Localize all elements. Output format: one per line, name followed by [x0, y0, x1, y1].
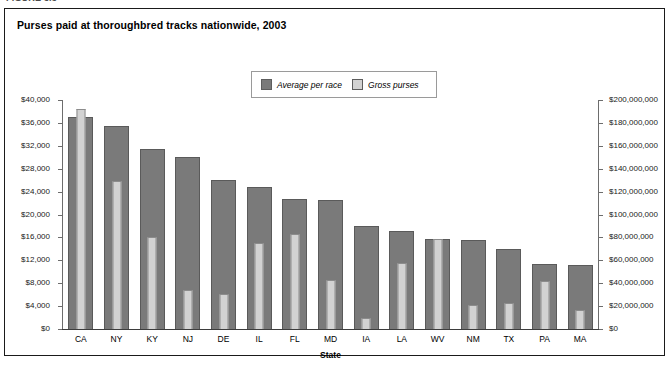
right-axis-tick-label: $100,000,000	[609, 211, 658, 219]
right-tick	[599, 237, 603, 238]
bar-gross-purses[interactable]	[255, 243, 264, 329]
left-tick	[58, 192, 62, 193]
left-tick	[58, 260, 62, 261]
bar-group[interactable]: NY	[104, 100, 129, 329]
chart-title: Purses paid at thoroughbred tracks natio…	[17, 19, 286, 31]
bar-group[interactable]: FL	[282, 100, 307, 329]
bar-gross-purses[interactable]	[362, 318, 371, 329]
bar-gross-purses[interactable]	[469, 305, 478, 329]
legend-item-gross-purses: Gross purses	[352, 79, 419, 90]
bar-gross-purses[interactable]	[112, 181, 121, 329]
x-axis-category-label: PA	[539, 334, 550, 344]
bar-gross-purses[interactable]	[326, 280, 335, 329]
right-tick	[599, 123, 603, 124]
right-axis-tick-label: $20,000,000	[609, 302, 654, 310]
bar-group[interactable]: LA	[389, 100, 414, 329]
right-tick	[599, 169, 603, 170]
left-tick	[58, 283, 62, 284]
bar-gross-purses[interactable]	[540, 281, 549, 329]
left-axis-line	[62, 100, 63, 329]
x-axis-category-label: NJ	[183, 334, 193, 344]
right-axis-tick-label: $180,000,000	[609, 119, 658, 127]
bar-gross-purses[interactable]	[576, 310, 585, 329]
left-tick	[58, 306, 62, 307]
bar-group[interactable]: KY	[140, 100, 165, 329]
left-axis-tick-label: $36,000	[21, 119, 50, 127]
bar-gross-purses[interactable]	[504, 303, 513, 329]
x-axis-category-label: DE	[218, 334, 230, 344]
legend-item-average-per-race: Average per race	[261, 79, 342, 90]
x-axis-category-label: KY	[146, 334, 157, 344]
x-axis-category-label: NM	[467, 334, 480, 344]
bar-group[interactable]: NJ	[175, 100, 200, 329]
right-tick	[599, 215, 603, 216]
x-axis-line	[62, 329, 599, 330]
bar-gross-purses[interactable]	[290, 234, 299, 329]
right-axis-tick-label: $140,000,000	[609, 165, 658, 173]
x-axis-category-label: WV	[431, 334, 445, 344]
left-tick	[58, 215, 62, 216]
bar-gross-purses[interactable]	[433, 239, 442, 329]
bar-group[interactable]: IL	[247, 100, 272, 329]
chart-legend: Average per race Gross purses	[251, 71, 437, 98]
x-axis-title: State	[63, 350, 598, 360]
bar-gross-purses[interactable]	[148, 237, 157, 329]
bar-group[interactable]: WV	[425, 100, 450, 329]
left-tick	[58, 237, 62, 238]
bar-group[interactable]: PA	[532, 100, 557, 329]
right-tick	[599, 306, 603, 307]
legend-label-average-per-race: Average per race	[277, 80, 342, 90]
right-tick	[599, 146, 603, 147]
bar-group[interactable]: DE	[211, 100, 236, 329]
left-tick	[58, 123, 62, 124]
left-tick	[58, 100, 62, 101]
bar-group[interactable]: CA	[68, 100, 93, 329]
x-axis-category-label: CA	[75, 334, 87, 344]
figure-caption-cutoff: FIGURE 3.5	[6, 0, 57, 1]
bar-group[interactable]: TX	[496, 100, 521, 329]
x-axis-category-label: LA	[397, 334, 407, 344]
bar-gross-purses[interactable]	[76, 109, 85, 329]
figure-frame: Purses paid at thoroughbred tracks natio…	[4, 8, 665, 356]
left-axis-tick-label: $8,000	[26, 279, 50, 287]
right-tick	[599, 329, 603, 330]
bar-group[interactable]: MA	[568, 100, 593, 329]
right-axis-tick-label: $40,000,000	[609, 279, 654, 287]
bar-average-per-race[interactable]	[354, 226, 379, 329]
x-axis-category-label: TX	[503, 334, 514, 344]
left-axis-tick-label: $16,000	[21, 233, 50, 241]
legend-swatch-gross-purses	[352, 79, 363, 90]
right-tick	[599, 283, 603, 284]
bar-gross-purses[interactable]	[219, 294, 228, 329]
left-tick	[58, 146, 62, 147]
left-tick	[58, 329, 62, 330]
right-axis-tick-label: $0	[609, 325, 618, 333]
bar-group[interactable]: IA	[354, 100, 379, 329]
right-axis-tick-label: $80,000,000	[609, 233, 654, 241]
x-axis-category-label: IL	[256, 334, 263, 344]
x-axis-category-label: IA	[362, 334, 370, 344]
left-axis-tick-label: $0	[41, 325, 50, 333]
left-axis-tick-label: $12,000	[21, 256, 50, 264]
right-axis-tick-label: $160,000,000	[609, 142, 658, 150]
left-axis-tick-label: $24,000	[21, 188, 50, 196]
right-tick	[599, 192, 603, 193]
x-axis-category-label: FL	[290, 334, 300, 344]
left-axis-tick-label: $32,000	[21, 142, 50, 150]
legend-label-gross-purses: Gross purses	[368, 80, 419, 90]
right-axis-tick-label: $120,000,000	[609, 188, 658, 196]
left-axis-tick-label: $28,000	[21, 165, 50, 173]
bar-gross-purses[interactable]	[397, 263, 406, 329]
left-axis-tick-label: $40,000	[21, 96, 50, 104]
plot-area: $0$4,000$8,000$12,000$16,000$20,000$24,0…	[63, 100, 598, 329]
right-tick	[599, 100, 603, 101]
x-axis-category-label: MA	[574, 334, 587, 344]
legend-swatch-average-per-race	[261, 79, 272, 90]
right-axis-tick-label: $60,000,000	[609, 256, 654, 264]
left-axis-tick-label: $4,000	[26, 302, 50, 310]
bar-group[interactable]: MD	[318, 100, 343, 329]
bar-group[interactable]: NM	[461, 100, 486, 329]
bar-gross-purses[interactable]	[183, 290, 192, 329]
right-tick	[599, 260, 603, 261]
right-axis-tick-label: $200,000,000	[609, 96, 658, 104]
